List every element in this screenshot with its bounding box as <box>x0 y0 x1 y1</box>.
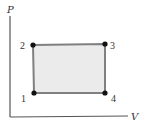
state-point-2 <box>30 42 35 47</box>
state-label-1: 1 <box>21 93 26 104</box>
pv-diagram: P V 1 2 3 4 <box>0 0 147 127</box>
state-point-3 <box>102 41 107 46</box>
v-axis <box>10 116 128 117</box>
p-axis-label: P <box>6 4 14 15</box>
state-label-4: 4 <box>111 93 116 104</box>
state-point-1 <box>31 90 36 95</box>
v-axis-label: V <box>131 111 140 122</box>
cycle-area <box>33 44 105 93</box>
state-label-2: 2 <box>20 40 25 51</box>
state-label-3: 3 <box>110 40 115 51</box>
state-point-4 <box>102 90 107 95</box>
